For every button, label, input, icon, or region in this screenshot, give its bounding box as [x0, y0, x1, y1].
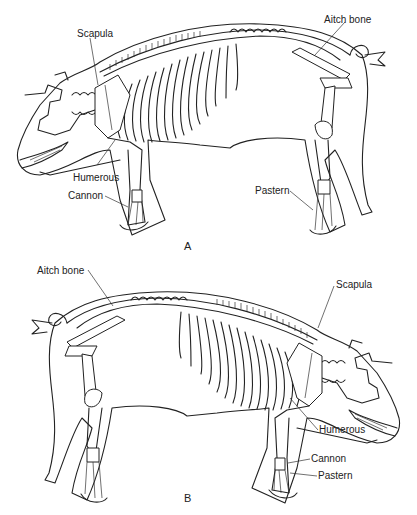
label-scapula: Scapula [77, 29, 113, 39]
label-humerous: Humerous [319, 425, 365, 435]
label-cannon: Cannon [68, 191, 103, 201]
pig-skeleton-view-a: Scapula Aitch bone Humerous Cannon Paste… [0, 0, 417, 258]
label-scapula: Scapula [336, 280, 372, 290]
label-cannon: Cannon [311, 454, 346, 464]
label-aitch-bone: Aitch bone [324, 15, 371, 25]
panel-caption-a: A [184, 240, 191, 252]
label-pastern: Pastern [318, 471, 352, 481]
pig-skeleton-view-b: Aitch bone Scapula Humerous Cannon Paste… [0, 258, 417, 515]
pig-skeleton-drawing-a [0, 0, 417, 258]
label-humerous: Humerous [73, 173, 119, 183]
pig-skeleton-drawing-b [0, 258, 417, 515]
label-aitch-bone: Aitch bone [37, 266, 84, 276]
label-pastern: Pastern [255, 186, 289, 196]
panel-caption-b: B [184, 492, 191, 504]
